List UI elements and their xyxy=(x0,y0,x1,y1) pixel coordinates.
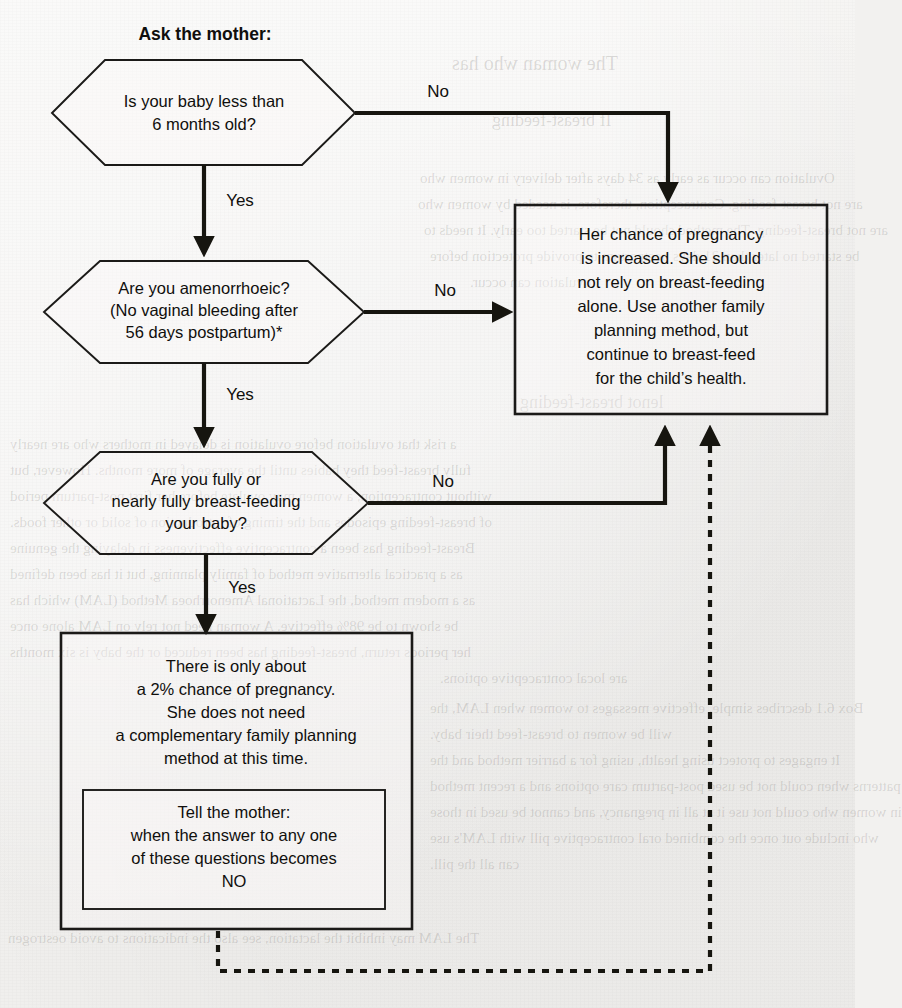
decision-q3-line3: your baby? xyxy=(165,514,247,532)
outcome-increased-line3: not rely on breast-feeding xyxy=(577,273,764,291)
outcome-increased-line1: Her chance of pregnancy xyxy=(579,225,764,243)
edge-label-q3-no: No xyxy=(432,472,454,491)
outcome-increased-line7: for the child’s health. xyxy=(595,369,746,387)
decision-q3-line1: Are you fully or xyxy=(151,470,262,488)
nested-note-line3: of these questions becomes xyxy=(131,849,336,867)
edge-label-q1-yes: Yes xyxy=(226,191,254,210)
decision-q3-line2: nearly fully breast-feeding xyxy=(112,492,301,510)
decision-q1-line2: 6 months old? xyxy=(152,115,256,133)
edge-label-q2-yes: Yes xyxy=(226,385,254,404)
outcome-increased-line5: planning method, but xyxy=(594,321,749,339)
decision-q2-line2: (No vaginal bleeding after xyxy=(110,301,299,319)
decision-q2-line3: 56 days postpartum)* xyxy=(126,323,283,341)
outcome-low-line4: a complementary family planning xyxy=(115,726,356,744)
decision-q1-line1: Is your baby less than xyxy=(124,92,285,110)
page-title: Ask the mother: xyxy=(138,24,271,44)
outcome-low-line1: There is only about xyxy=(166,657,307,675)
edge-q3-no xyxy=(368,430,665,503)
edge-label-q3-yes: Yes xyxy=(228,578,256,597)
outcome-low-line5: method at this time. xyxy=(164,749,308,767)
nested-note-line2: when the answer to any one xyxy=(130,826,337,844)
outcome-increased-line4: alone. Use another family xyxy=(577,297,765,315)
decision-hexagon-q1[interactable] xyxy=(52,60,355,165)
outcome-low-line2: a 2% chance of pregnancy. xyxy=(137,680,336,698)
nested-note-line1: Tell the mother: xyxy=(178,803,291,821)
decision-q2-line1: Are you amenorrhoeic? xyxy=(118,279,290,297)
edge-label-q1-no: No xyxy=(427,82,449,101)
outcome-increased-line6: continue to breast-feed xyxy=(587,345,756,363)
outcome-increased-line2: is increased. She should xyxy=(581,249,761,267)
nested-note-line4: NO xyxy=(222,872,247,890)
edge-label-q2-no: No xyxy=(434,281,456,300)
outcome-low-line3: She does not need xyxy=(167,703,306,721)
edge-q1-no xyxy=(355,113,668,198)
